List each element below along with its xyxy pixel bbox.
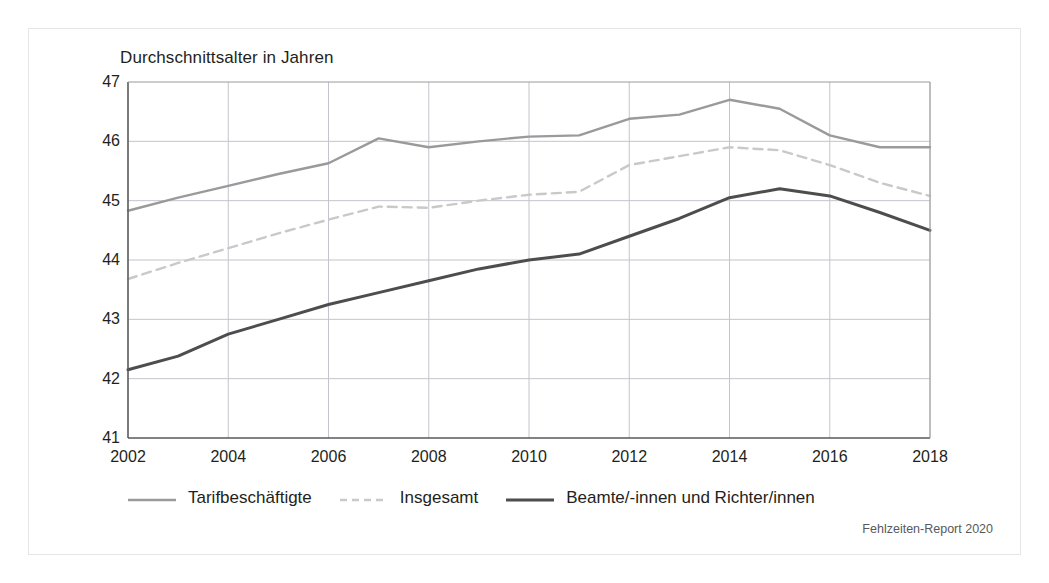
x-tick-label: 2004 — [210, 448, 246, 466]
y-tick-label: 44 — [80, 251, 120, 269]
legend-item-3[interactable]: Beamte/-innen und Richter/innen — [506, 488, 815, 508]
x-tick-label: 2016 — [812, 448, 848, 466]
x-tick-label: 2018 — [912, 448, 948, 466]
chart-figure: Durchschnittsalter in Jahren 41424344454… — [0, 0, 1049, 583]
legend-item-1[interactable]: Tarifbeschäftigte — [128, 488, 312, 508]
y-tick-label: 41 — [80, 429, 120, 447]
x-tick-label: 2012 — [611, 448, 647, 466]
y-tick-label: 43 — [80, 310, 120, 328]
legend-swatch-icon — [506, 492, 554, 504]
x-tick-label: 2014 — [712, 448, 748, 466]
legend-swatch-icon — [128, 492, 176, 504]
y-tick-label: 42 — [80, 370, 120, 388]
x-tick-label: 2006 — [311, 448, 347, 466]
footer-source-note: Fehlzeiten-Report 2020 — [862, 522, 993, 536]
y-tick-label: 46 — [80, 132, 120, 150]
y-axis-tick-labels: 41424344454647 — [78, 82, 120, 438]
chart-plot-svg — [128, 82, 930, 438]
y-tick-label: 47 — [80, 73, 120, 91]
x-axis-tick-labels: 200220042006200820102012201420162018 — [128, 448, 930, 472]
y-tick-label: 45 — [80, 192, 120, 210]
legend-swatch-icon — [340, 492, 388, 504]
x-tick-label: 2010 — [511, 448, 547, 466]
plot-area — [128, 82, 930, 438]
legend-label: Tarifbeschäftigte — [188, 488, 312, 508]
legend-label: Insgesamt — [400, 488, 478, 508]
legend-label: Beamte/-innen und Richter/innen — [566, 488, 815, 508]
chart-legend: TarifbeschäftigteInsgesamtBeamte/-innen … — [128, 486, 843, 510]
legend-item-2[interactable]: Insgesamt — [340, 488, 478, 508]
x-tick-label: 2002 — [110, 448, 146, 466]
chart-title: Durchschnittsalter in Jahren — [120, 48, 334, 68]
x-tick-label: 2008 — [411, 448, 447, 466]
